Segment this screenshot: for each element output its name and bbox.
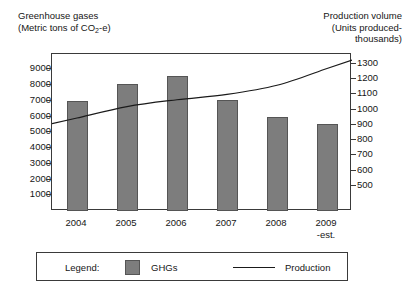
right-tick-label: 1200 — [357, 73, 403, 83]
left-tick-label: 8000 — [11, 79, 51, 89]
plot-area — [51, 53, 351, 210]
left-axis-title-line2: (Metric tons of CO2-e) — [18, 22, 111, 35]
left-tick-label: 9000 — [11, 63, 51, 73]
category-label-2005: 2005 — [98, 217, 154, 229]
right-tick-label: 800 — [357, 134, 403, 144]
left-tick-label: 2000 — [11, 174, 51, 184]
right-axis-title-line2: (Units produced- — [323, 22, 402, 34]
left-axis-title-line1: Greenhouse gases — [18, 10, 111, 22]
category-label-2007: 2007 — [198, 217, 254, 229]
left-axis-title: Greenhouse gases (Metric tons of CO2-e) — [18, 10, 111, 34]
right-tick-label: 1300 — [357, 58, 403, 68]
category-label-2006: 2006 — [148, 217, 204, 229]
category-label-2004: 2004 — [48, 217, 104, 229]
legend-ghg-label: GHGs — [151, 263, 177, 273]
production-line-path — [52, 60, 352, 124]
left-tick-label: 4000 — [11, 142, 51, 152]
left-tick-label: 1000 — [11, 189, 51, 199]
chart-container: Greenhouse gases (Metric tons of CO2-e) … — [0, 0, 408, 296]
legend-title: Legend: — [65, 263, 99, 273]
right-tick-label: 1000 — [357, 104, 403, 114]
legend-production-label: Production — [285, 263, 330, 273]
right-tick-label: 900 — [357, 119, 403, 129]
right-axis-title-line1: Production volume — [323, 10, 402, 22]
category-label-2009: 2009-est. — [298, 217, 354, 240]
right-tick-label: 1100 — [357, 88, 403, 98]
left-tick-label: 6000 — [11, 111, 51, 121]
left-tick-label: 7000 — [11, 95, 51, 105]
legend-box: Legend: GHGs Production — [36, 252, 348, 281]
right-axis-title: Production volume (Units produced- thous… — [323, 10, 402, 45]
category-label-2008: 2008 — [248, 217, 304, 229]
legend-production-line-sample — [233, 267, 275, 268]
right-tick-label: 500 — [357, 180, 403, 190]
left-tick-label: 3000 — [11, 158, 51, 168]
right-axis-title-line3: thousands) — [323, 33, 402, 45]
left-tick-label: 5000 — [11, 126, 51, 136]
right-tick-label: 600 — [357, 165, 403, 175]
production-line-svg — [52, 54, 352, 211]
right-tick-label: 700 — [357, 149, 403, 159]
legend-ghg-swatch — [125, 260, 140, 275]
